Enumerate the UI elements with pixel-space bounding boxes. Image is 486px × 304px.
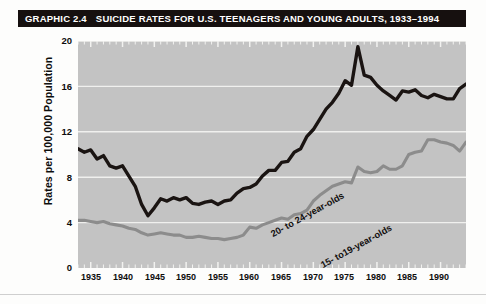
y-tick-label-4: 4 — [46, 217, 72, 228]
x-tick-label-1975: 1975 — [327, 272, 361, 282]
graphic-number: GRAPHIC 2.4 — [25, 13, 87, 24]
plot-area: 20- to 24-year-olds 15- to19-year-olds — [78, 41, 466, 268]
y-tick-label-0: 0 — [46, 262, 72, 273]
x-tick-label-1935: 1935 — [74, 272, 108, 282]
x-tick-label-1945: 1945 — [138, 272, 172, 282]
y-tick-label-8: 8 — [46, 172, 72, 183]
y-tick-label-16: 16 — [46, 81, 72, 92]
x-tick-label-1970: 1970 — [296, 272, 330, 282]
x-tick-label-1955: 1955 — [201, 272, 235, 282]
page-title: SUICIDE RATES FOR U.S. TEENAGERS AND YOU… — [96, 13, 439, 24]
x-tick-label-1965: 1965 — [264, 272, 298, 282]
chart-title-bar: GRAPHIC 2.4 SUICIDE RATES FOR U.S. TEENA… — [18, 10, 466, 27]
x-tick-label-1940: 1940 — [106, 272, 140, 282]
y-tick-label-20: 20 — [46, 35, 72, 46]
y-tick-label-12: 12 — [46, 126, 72, 137]
x-tick-label-1990: 1990 — [422, 272, 456, 282]
x-tick-label-1985: 1985 — [390, 272, 424, 282]
chart-figure: GRAPHIC 2.4 SUICIDE RATES FOR U.S. TEENA… — [0, 0, 486, 304]
x-tick-label-1960: 1960 — [232, 272, 266, 282]
bottom-divider — [0, 294, 486, 295]
x-tick-label-1950: 1950 — [169, 272, 203, 282]
gridlines — [78, 41, 466, 223]
x-tick-label-1980: 1980 — [359, 272, 393, 282]
